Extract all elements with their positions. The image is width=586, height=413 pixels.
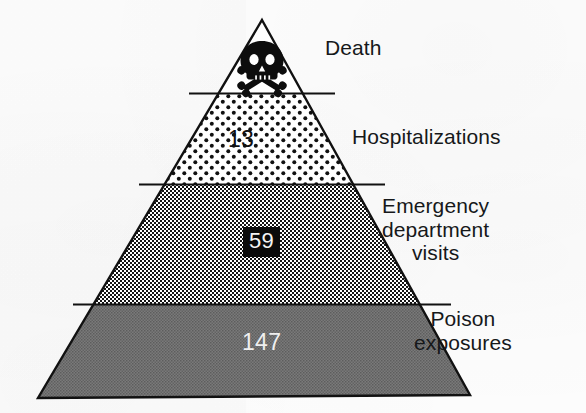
tier-value-hospitalizations: 13 — [228, 126, 254, 153]
figure-canvas: Death Hospitalizations Emergency departm… — [0, 0, 586, 413]
tier-label-emergency-department-visits: Emergency department visits — [382, 194, 489, 265]
tier-value-poison-exposures: 147 — [242, 329, 281, 356]
tier-value-emergency-department-visits: 59 — [243, 227, 280, 257]
tier-label-death: Death — [325, 36, 382, 60]
tier-band-death — [0, 0, 586, 94]
tier-label-hospitalizations: Hospitalizations — [352, 125, 501, 149]
tier-label-poison-exposures: Poison exposures — [414, 307, 512, 354]
tier-band-emergency-department-visits — [0, 185, 586, 305]
